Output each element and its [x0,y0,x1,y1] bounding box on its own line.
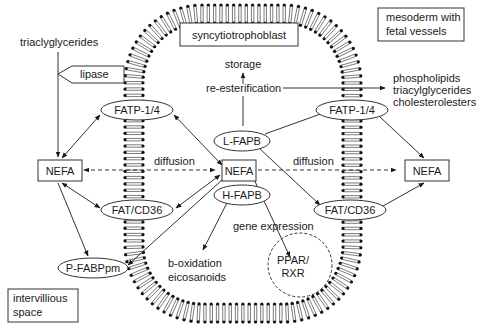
lipid-tail [136,43,151,52]
lipid-head [359,145,362,148]
nefa-left-label: NEFA [46,165,75,177]
mesoderm-box: mesoderm with fetal vessels [378,8,464,41]
lipid-head [203,302,206,305]
lipid-head [123,163,126,166]
lipid-head [341,145,344,148]
lipid-tail [343,75,361,76]
lipid-head [148,24,151,27]
lipid-tail [335,43,350,52]
lipid-tail [343,77,361,78]
lipid-head [142,70,145,73]
lipid-head [341,157,344,160]
boxidation-label-line2: eicosanoids [168,271,227,283]
lipid-head [169,314,172,317]
lipid-head [167,292,170,295]
lipid-head [336,55,339,58]
lipid-head [123,246,126,249]
lipid-tail [137,41,152,50]
lipid-head [267,320,270,323]
lipid-head [359,183,362,186]
lipid-head [123,138,126,141]
lipid-head [359,233,362,236]
lipid-head [141,227,144,230]
lipid-head [125,260,128,263]
lipid-head [160,37,163,40]
lipid-head [153,45,156,48]
lipid-head [145,60,148,63]
lipid-tail [125,248,143,249]
lipid-head [270,3,273,6]
lipid-head [203,320,206,323]
lipid-head [344,35,347,38]
lipid-tail [334,41,349,50]
lipid-head [187,301,190,304]
lipid-head [359,74,362,77]
lipid-head [337,298,340,301]
lipid-tail [302,301,308,318]
lipid-head [359,240,362,243]
lipid-head [273,320,276,323]
lipid-head [123,87,126,90]
lipid-head [340,29,343,32]
lipid-tail [125,77,143,78]
gene-expression-label: gene expression [233,220,314,232]
lipid-tail [288,304,289,322]
fatcd36-right-node: FAT/CD36 [314,200,386,220]
lipid-head [158,285,161,288]
lipid-head [314,314,317,317]
pfabppm-node: P-FABPpm [58,258,128,278]
lipid-head [301,299,304,302]
lipid-head [186,5,189,8]
lipid-head [299,24,302,27]
lipid-head [318,34,321,37]
lipid-head [229,302,232,305]
lipid-head [141,245,144,248]
lipid-head [141,151,144,154]
lipid-head [189,320,192,323]
lipid-head [142,76,145,79]
lipid-head [283,3,286,6]
lipid-head [341,176,344,179]
lipid-head [123,157,126,160]
fatp-right-label: FATP-1/4 [329,104,375,116]
lipid-head [241,302,244,305]
lipid-head [141,138,144,141]
lipid-head [326,41,329,44]
intervillious-box: intervillious space [8,289,78,322]
lipid-tail [182,8,187,25]
fatcd36-left-label: FAT/CD36 [112,204,163,216]
lipid-head [141,182,144,185]
lipid-head [350,280,353,283]
ppar-label-line2: RXR [281,267,304,279]
lipid-tail [160,17,170,32]
lipid-head [285,302,288,305]
lipid-head [359,189,362,192]
lipid-head [219,3,222,6]
lipid-head [157,41,160,44]
lipid-tail [314,16,324,31]
lipid-head [323,37,326,40]
lipid-head [232,3,235,6]
lipid-head [235,302,238,305]
lipid-head [291,302,294,305]
lipid-head [141,132,144,135]
lipid-head [317,12,320,15]
lipid-head [309,28,312,31]
lipid-head [216,302,219,305]
lipid-head [329,19,332,22]
hfapb-label: H-FAPB [222,189,262,201]
lipid-head [341,132,344,135]
lipid-head [260,302,263,305]
lipid-tail [286,304,287,322]
boxidation-label-line1: b-oxidation [168,257,222,269]
reesterification-label: re-esterification [206,82,281,94]
nefa-center-node: NEFA [222,160,256,181]
lipid-head [359,126,362,129]
lipid-head [133,280,136,283]
lipid-head [160,15,163,18]
lipid-head [235,320,238,323]
lipid-head [341,251,344,254]
lipid-head [136,286,139,289]
lipid-head [128,53,131,56]
lfapb-node: L-FAPB [214,131,270,151]
